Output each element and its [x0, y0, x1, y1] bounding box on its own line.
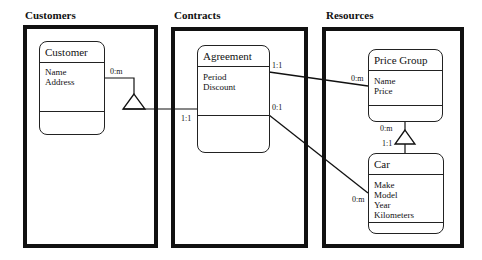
panel-customers-right-border: [154, 25, 158, 248]
generalization-triangle-resources: [395, 130, 415, 144]
entity-car[interactable]: Car Make Model Year Kilometers: [368, 153, 444, 234]
entity-price-group[interactable]: Price Group Name Price: [368, 49, 443, 122]
attribute: Name: [45, 67, 75, 77]
cardinality-agreement-pricegroup: 1:1: [272, 61, 282, 70]
cardinality-pricegroup-car: 0:m: [380, 124, 392, 133]
attribute: Period: [203, 72, 236, 82]
cardinality-car-pricegroup: 1:1: [382, 139, 392, 148]
entity-price-group-name: Price Group: [374, 54, 427, 66]
attribute: Name: [374, 76, 396, 86]
cardinality-pricegroup-agreement: 0:m: [351, 74, 363, 83]
attribute: Year: [374, 200, 414, 210]
attribute: Address: [45, 77, 75, 87]
entity-customer-attributes: Name Address: [45, 67, 75, 87]
panel-contracts-right-border: [304, 27, 308, 248]
divider: [369, 105, 442, 106]
cardinality-car-agreement: 0:m: [352, 195, 364, 204]
attribute: Discount: [203, 82, 236, 92]
divider: [40, 62, 104, 63]
panel-contracts-left-border: [171, 27, 175, 248]
entity-agreement[interactable]: Agreement Period Discount: [197, 45, 270, 153]
entity-car-name: Car: [374, 158, 390, 170]
divider: [198, 115, 269, 116]
entity-customer-name: Customer: [45, 46, 88, 58]
divider: [369, 174, 443, 175]
divider: [369, 222, 443, 223]
entity-car-attributes: Make Model Year Kilometers: [374, 180, 414, 220]
entity-agreement-name: Agreement: [203, 50, 252, 62]
attribute: Kilometers: [374, 210, 414, 220]
cardinality-customer: 0:m: [110, 67, 122, 76]
panel-resources-left-border: [322, 27, 326, 248]
cardinality-agreement-customer: 1:1: [181, 114, 191, 123]
attribute: Make: [374, 180, 414, 190]
cardinality-agreement-car: 0:1: [272, 103, 282, 112]
attribute: Price: [374, 86, 396, 96]
attribute: Model: [374, 190, 414, 200]
entity-agreement-attributes: Period Discount: [203, 72, 236, 92]
entity-price-group-attributes: Name Price: [374, 76, 396, 96]
divider: [198, 66, 269, 67]
divider: [369, 70, 442, 71]
divider: [40, 111, 104, 112]
entity-customer[interactable]: Customer Name Address: [39, 41, 105, 135]
